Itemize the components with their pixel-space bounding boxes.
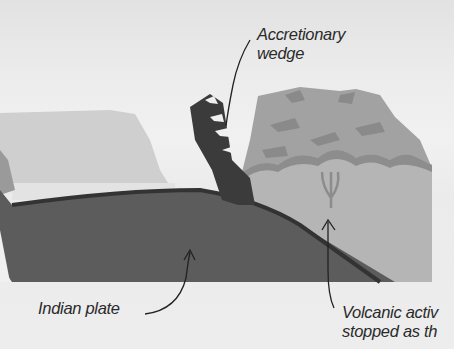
label-line: stopped as th (342, 322, 438, 341)
tectonic-cross-section (0, 0, 454, 349)
wedge-leader (226, 40, 250, 126)
label-indian-plate: Indian plate (38, 299, 120, 318)
label-accretionary-wedge: Accretionary wedge (257, 25, 345, 63)
label-line: wedge (257, 44, 345, 63)
left-plateau (0, 110, 168, 183)
label-line: Accretionary (257, 25, 345, 44)
diagram-canvas: Accretionary wedge Indian plate Volcanic… (0, 0, 454, 349)
label-volcanic-activity: Volcanic activ stopped as th (342, 303, 438, 341)
label-line: Volcanic activ (342, 303, 438, 322)
